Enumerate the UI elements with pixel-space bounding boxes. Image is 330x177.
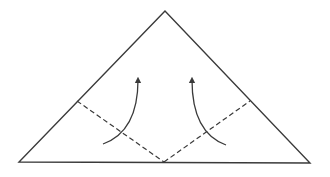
left-fold-arrow-icon [103,80,138,144]
fold-arrows [103,80,226,145]
origami-diagram [0,0,330,177]
left-valley-fold-line [77,101,164,162]
right-fold-arrow-icon [192,80,226,145]
fold-lines [77,101,250,162]
paper-triangle [19,11,310,163]
